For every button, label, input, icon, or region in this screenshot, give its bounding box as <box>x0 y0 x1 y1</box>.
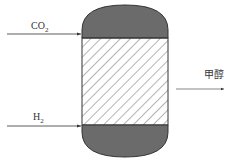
vessel-catalyst-bed <box>82 38 168 125</box>
vessel-bottom-dome <box>82 125 168 157</box>
vessel-top-dome <box>82 5 168 38</box>
methanol-label: 甲醇 <box>204 70 224 80</box>
co2-label: CO2 <box>31 21 48 34</box>
h2-label: H2 <box>33 112 44 125</box>
